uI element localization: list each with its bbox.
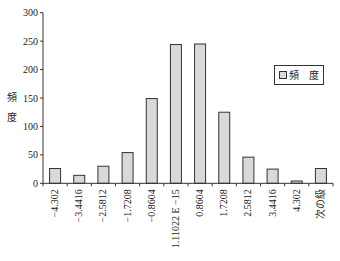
y-tick-label: 100 [23,121,38,132]
y-axis-label-char: 頻 [7,91,17,103]
x-tick-label: 4.302 [291,189,302,212]
legend-label: 頻 度 [289,69,319,81]
y-axis: 050100150200250300 [23,7,43,189]
y-axis-label: 頻度 [7,91,17,123]
legend-swatch [280,72,287,79]
histogram-bar [122,153,133,184]
histogram-bar [74,175,85,183]
y-tick-label: 200 [23,64,38,75]
histogram-bar [267,169,278,183]
histogram-bar [219,112,230,183]
x-tick-label: 1.11022 E −15 [170,189,181,248]
x-tick-label: 2.5812 [242,189,253,217]
x-axis: −4.302−3.4416−2.5812−1.7208−0.86041.1102… [43,183,333,248]
y-tick-label: 250 [23,36,38,47]
histogram-chart: 050100150200250300 −4.302−3.4416−2.5812−… [0,0,340,261]
x-tick-label: 1.7208 [218,189,229,217]
y-axis-label-char: 度 [7,111,17,123]
histogram-bar [146,99,157,184]
x-tick-label: 3.4416 [267,189,278,217]
x-tick-label: −1.7208 [122,189,133,222]
bars [50,44,327,183]
y-tick-label: 300 [23,7,38,18]
x-tick-label: −4.302 [49,189,60,217]
legend: 頻 度 [275,66,324,85]
histogram-bar [195,44,206,183]
histogram-bar [315,169,326,184]
histogram-bar [98,166,109,183]
histogram-bar [170,45,181,184]
y-tick-label: 50 [28,149,38,160]
x-tick-label: −0.8604 [146,189,157,222]
x-tick-label: −2.5812 [97,189,108,222]
y-tick-label: 0 [33,178,38,189]
x-tick-label: 次の級 [314,189,326,219]
y-tick-label: 150 [23,93,38,104]
x-tick-label: 0.8604 [194,189,205,217]
histogram-bar [50,169,61,184]
histogram-bar [243,157,254,183]
x-tick-label: −3.4416 [73,189,84,222]
